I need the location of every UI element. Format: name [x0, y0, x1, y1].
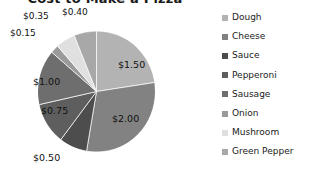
pie-slices [38, 31, 155, 152]
legend-swatch-icon [222, 130, 228, 136]
chart-legend: DoughCheeseSaucePepperoniSausageOnionMus… [222, 8, 314, 162]
legend-swatch-icon [222, 111, 228, 117]
pie-plot-area: $1.50 $2.00 $0.50 $0.75 $1.00 $0.15 $0.3… [0, 0, 210, 173]
slice-label-sauce: $0.50 [33, 152, 60, 163]
legend-item-onion[interactable]: Onion [222, 104, 314, 123]
legend-swatch-icon [222, 53, 228, 59]
legend-swatch-icon [222, 15, 228, 21]
pie-slice-group [38, 31, 155, 152]
legend-item-label: Sauce [232, 51, 259, 60]
legend-item-mushroom[interactable]: Mushroom [222, 123, 314, 142]
legend-item-label: Mushroom [232, 128, 279, 137]
legend-item-cheese[interactable]: Cheese [222, 27, 314, 46]
legend-item-green-pepper[interactable]: Green Pepper [222, 142, 314, 161]
legend-item-sauce[interactable]: Sauce [222, 46, 314, 65]
legend-item-sausage[interactable]: Sausage [222, 85, 314, 104]
legend-swatch-icon [222, 72, 228, 78]
slice-label-onion: $0.15 [10, 28, 36, 38]
slice-label-mushroom: $0.35 [23, 11, 49, 21]
legend-item-label: Sausage [232, 90, 270, 99]
pie-chart [38, 31, 155, 152]
slice-label-sausage: $1.00 [33, 76, 60, 87]
legend-item-label: Dough [232, 13, 262, 22]
slice-label-green-pepper: $0.40 [62, 7, 88, 17]
slice-label-dough: $1.50 [118, 59, 145, 70]
legend-item-label: Cheese [232, 32, 265, 41]
legend-swatch-icon [222, 149, 228, 155]
legend-item-label: Onion [232, 109, 259, 118]
slice-label-cheese: $2.00 [112, 113, 139, 124]
chart-container: Cost to Make a Pizza $1.50 $2.00 $0.50 $… [0, 0, 314, 173]
legend-item-dough[interactable]: Dough [222, 8, 314, 27]
legend-swatch-icon [222, 34, 228, 40]
pie-svg [38, 31, 155, 152]
legend-item-pepperoni[interactable]: Pepperoni [222, 66, 314, 85]
legend-swatch-icon [222, 91, 228, 97]
legend-item-label: Green Pepper [232, 147, 293, 156]
legend-item-label: Pepperoni [232, 71, 277, 80]
slice-label-pepperoni: $0.75 [41, 105, 68, 116]
